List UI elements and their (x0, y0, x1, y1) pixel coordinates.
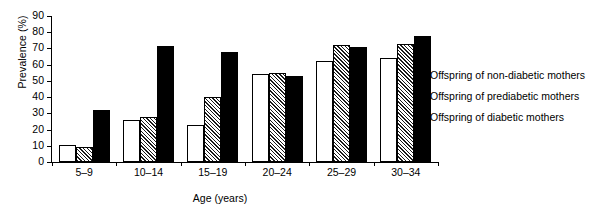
bar-black (157, 46, 174, 162)
y-axis-tick-label: 30 (18, 107, 44, 117)
bar-group (374, 16, 438, 162)
legend-label: Offspring of diabetic mothers (430, 111, 564, 123)
y-axis-tick-label: 50 (18, 75, 44, 85)
bar-hatch (269, 73, 286, 162)
y-axis-tick-label: 80 (18, 26, 44, 36)
x-axis-separator-tick (116, 162, 117, 166)
y-axis-tick-label: 70 (18, 42, 44, 52)
bar-black (414, 36, 431, 162)
y-axis-tick-mark (47, 162, 51, 163)
bar-black (93, 110, 110, 162)
x-axis-separator-tick (309, 162, 310, 166)
x-axis-tick-label: 15–19 (181, 166, 245, 178)
y-axis-tick-label: 20 (18, 124, 44, 134)
x-axis-separator-tick (245, 162, 246, 166)
x-axis-tick-label: 30–34 (374, 166, 438, 178)
legend-label: Offspring of non-diabetic mothers (430, 69, 585, 81)
y-axis-tick-mark (47, 48, 51, 49)
y-axis-tick-label: 90 (18, 10, 44, 20)
x-axis-title: Age (years) (0, 192, 440, 204)
y-axis-tick-mark (47, 130, 51, 131)
y-axis-tick-mark (47, 16, 51, 17)
chart-legend: Offspring of non-diabetic mothersOffspri… (409, 66, 585, 129)
y-axis-tick-label: 10 (18, 140, 44, 150)
x-axis-tick-label: 10–14 (116, 166, 180, 178)
x-axis-separator-tick (181, 162, 182, 166)
bar-group (309, 16, 373, 162)
bar-hatch (204, 97, 221, 162)
bar-group (245, 16, 309, 162)
bar-black (350, 47, 367, 162)
bar-white (252, 74, 269, 162)
x-axis-separator-tick (438, 162, 439, 166)
y-axis-tick-mark (47, 32, 51, 33)
bar-white (316, 61, 333, 162)
bar-group (116, 16, 180, 162)
bar-hatch (140, 117, 157, 162)
bar-group (181, 16, 245, 162)
x-axis-tick-label: 20–24 (245, 166, 309, 178)
bar-white (380, 58, 397, 162)
y-axis-tick-label: 0 (18, 156, 44, 166)
legend-item: Offspring of non-diabetic mothers (409, 66, 585, 84)
chart-figure: Prevalence (%) 0102030405060708090 5–910… (0, 0, 614, 218)
x-axis-tick-label: 25–29 (309, 166, 373, 178)
y-axis-tick-mark (47, 113, 51, 114)
bar-white (187, 125, 204, 162)
bar-group (52, 16, 116, 162)
y-axis-tick-mark (47, 146, 51, 147)
y-axis-tick-label: 40 (18, 91, 44, 101)
x-axis-tick-label: 5–9 (52, 166, 116, 178)
x-axis-separator-tick (374, 162, 375, 166)
bar-black (286, 76, 303, 162)
legend-label: Offspring of prediabetic mothers (430, 90, 579, 102)
x-axis-separator-tick (52, 162, 53, 166)
bar-white (123, 120, 140, 162)
legend-item: Offspring of diabetic mothers (409, 108, 585, 126)
y-axis-tick-label: 60 (18, 59, 44, 69)
y-axis-tick-mark (47, 97, 51, 98)
y-axis-tick-mark (47, 81, 51, 82)
bar-white (59, 145, 76, 162)
bar-hatch (397, 44, 414, 162)
y-axis-tick-mark (47, 65, 51, 66)
bar-black (221, 52, 238, 162)
legend-item: Offspring of prediabetic mothers (409, 87, 585, 105)
bar-hatch (333, 45, 350, 162)
bar-hatch (76, 147, 93, 162)
